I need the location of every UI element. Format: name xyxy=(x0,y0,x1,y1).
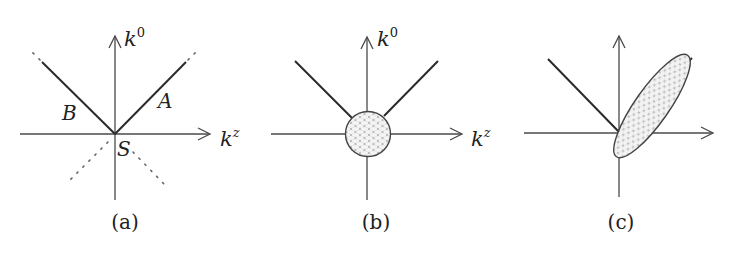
panel-b: k0 kz (b) xyxy=(271,25,491,234)
k0-label: k0 xyxy=(124,25,145,51)
hatched-circle xyxy=(346,112,391,157)
caption-c: (c) xyxy=(608,210,635,234)
label-a: A xyxy=(156,89,172,113)
label-b: B xyxy=(61,101,77,125)
dotted-extension-b xyxy=(30,50,40,60)
line-left xyxy=(548,59,619,132)
panel-a: k0 kz B A S (a) xyxy=(20,25,240,234)
line-left xyxy=(295,61,352,118)
figure-canvas: k0 kz B A S (a) k0 kz (b) (c) xyxy=(0,0,735,255)
caption-a: (a) xyxy=(111,210,139,234)
line-b xyxy=(42,62,115,134)
dotted-extension-a xyxy=(188,50,198,60)
panel-c: (c) xyxy=(524,36,713,234)
label-s: S xyxy=(117,137,131,161)
hatched-ellipse xyxy=(603,45,702,166)
kz-label: kz xyxy=(220,125,240,151)
dotted-lower-right xyxy=(133,152,164,184)
line-right xyxy=(384,61,438,116)
caption-b: (b) xyxy=(362,210,390,234)
kz-label: kz xyxy=(471,125,491,151)
dotted-lower-left xyxy=(66,142,108,184)
line-a xyxy=(115,62,186,134)
k0-label: k0 xyxy=(377,25,398,51)
